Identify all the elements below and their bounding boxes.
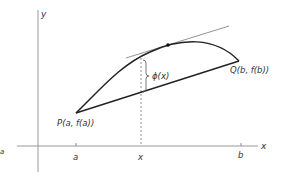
point-q-label: Q(b, f(b)): [230, 65, 269, 75]
tangent-line: [126, 26, 229, 58]
point-p-label: P(a, f(a)): [57, 118, 94, 128]
y-axis-label: y: [40, 9, 47, 19]
x-axis-label: x: [260, 141, 267, 151]
mvt-diagram: y x a x b P(a, f(a)) Q(b, f(b)) ϕ(x) a: [0, 0, 282, 177]
phi-brace: [143, 60, 149, 92]
margin-fragment: a: [0, 148, 4, 156]
tangent-point: [166, 43, 170, 47]
tick-label-x: x: [137, 152, 144, 162]
tick-label-a: a: [73, 152, 78, 162]
phi-label: ϕ(x): [152, 71, 169, 81]
tick-label-b: b: [238, 150, 243, 160]
secant-chord-pq: [76, 61, 239, 113]
